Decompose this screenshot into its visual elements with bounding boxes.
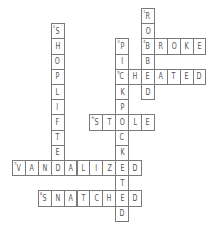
crossword-cell[interactable]: E <box>115 160 129 176</box>
crossword-cell[interactable]: E <box>141 114 155 130</box>
crossword-cell[interactable]: L <box>51 84 65 100</box>
crossword-cell[interactable]: O <box>167 38 181 54</box>
crossword-cell[interactable]: Z <box>102 160 116 176</box>
cell-letter: O <box>120 118 125 127</box>
crossword-cell[interactable]: L <box>128 114 142 130</box>
crossword-cell[interactable]: T <box>167 69 181 85</box>
crossword-cell[interactable]: S6 <box>89 114 103 130</box>
cell-letter: H <box>107 194 112 203</box>
crossword-cell[interactable]: A <box>154 69 168 85</box>
crossword-cell[interactable]: P <box>115 99 129 115</box>
crossword-cell[interactable]: E <box>141 69 155 85</box>
cell-letter: D <box>120 209 125 218</box>
cell-letter: D <box>133 194 138 203</box>
cell-letter: T <box>120 179 124 188</box>
crossword-cell[interactable]: N <box>38 160 52 176</box>
crossword-cell[interactable]: O <box>115 114 129 130</box>
crossword-cell[interactable]: K <box>115 145 129 161</box>
crossword-cell[interactable]: I <box>89 160 103 176</box>
crossword-cell[interactable]: V7 <box>12 160 26 176</box>
crossword-cell[interactable]: D <box>115 206 129 222</box>
crossword-cell[interactable]: L <box>77 160 91 176</box>
cell-letter: A <box>68 194 72 203</box>
cell-letter: V <box>17 164 21 173</box>
clue-number: 8 <box>40 191 43 196</box>
cell-letter: L <box>56 88 60 97</box>
crossword-cell[interactable]: T <box>102 114 116 130</box>
cell-letter: T <box>107 118 111 127</box>
crossword-cell[interactable]: T <box>77 190 91 206</box>
cell-letter: E <box>56 148 60 157</box>
crossword-cell[interactable]: O <box>141 23 155 39</box>
crossword-cell[interactable]: C <box>89 190 103 206</box>
crossword-cell[interactable]: K <box>180 38 194 54</box>
cell-letter: L <box>133 118 137 127</box>
cell-letter: D <box>133 164 138 173</box>
crossword-cell[interactable]: C <box>115 130 129 146</box>
crossword-cell[interactable]: A <box>64 160 78 176</box>
crossword-cell[interactable]: D <box>128 160 142 176</box>
crossword-cell[interactable]: D <box>141 84 155 100</box>
crossword-cell[interactable]: H <box>128 69 142 85</box>
crossword-cell[interactable]: D <box>128 190 142 206</box>
cell-letter: R <box>146 12 150 21</box>
cell-letter: A <box>159 72 163 81</box>
cell-letter: Z <box>107 164 111 173</box>
crossword-cell[interactable]: S8 <box>38 190 52 206</box>
cell-letter: L <box>82 164 86 173</box>
crossword-cell[interactable]: R1 <box>141 8 155 24</box>
crossword-cell[interactable]: I <box>51 99 65 115</box>
crossword-cell[interactable]: C5 <box>115 69 129 85</box>
crossword-cell[interactable]: D <box>51 160 65 176</box>
cell-letter: B <box>146 42 150 51</box>
cell-letter: E <box>120 164 124 173</box>
cell-letter: I <box>121 57 123 66</box>
crossword-cell[interactable]: H <box>102 190 116 206</box>
cell-letter: K <box>120 88 124 97</box>
crossword-cell[interactable]: T <box>115 175 129 191</box>
cell-letter: E <box>185 72 189 81</box>
cell-letter: I <box>57 103 59 112</box>
crossword-cell[interactable]: D <box>193 69 207 85</box>
crossword-cell[interactable]: I <box>115 54 129 70</box>
crossword-cell[interactable]: B4 <box>141 38 155 54</box>
cell-letter: D <box>197 72 202 81</box>
crossword-cell[interactable]: N <box>51 190 65 206</box>
crossword-cell[interactable]: O <box>51 54 65 70</box>
cell-letter: O <box>171 42 176 51</box>
cell-letter: T <box>81 194 85 203</box>
cell-letter: F <box>56 118 60 127</box>
crossword-cell[interactable]: P <box>51 69 65 85</box>
crossword-cell[interactable]: A <box>64 190 78 206</box>
crossword-cell[interactable]: P3 <box>115 38 129 54</box>
clue-number: 1 <box>143 9 146 14</box>
cell-letter: H <box>133 72 138 81</box>
crossword-cell[interactable]: K <box>115 84 129 100</box>
crossword-cell[interactable]: B <box>141 54 155 70</box>
crossword-cell[interactable]: F <box>51 114 65 130</box>
cell-letter: K <box>185 42 189 51</box>
crossword-grid: R1OB4BEDS2HOPLIFTEDP3IC5KPOCKETEDROKEHAT… <box>0 0 215 227</box>
crossword-cell[interactable]: H <box>51 38 65 54</box>
cell-letter: C <box>94 194 98 203</box>
cell-letter: R <box>159 42 163 51</box>
crossword-cell[interactable]: E <box>193 38 207 54</box>
clue-number: 6 <box>91 115 94 120</box>
cell-letter: D <box>145 88 150 97</box>
cell-letter: T <box>172 72 176 81</box>
cell-letter: S <box>56 27 60 36</box>
crossword-cell[interactable]: A <box>25 160 39 176</box>
crossword-cell[interactable]: E <box>115 190 129 206</box>
cell-letter: S <box>94 118 98 127</box>
cell-letter: P <box>56 72 60 81</box>
cell-letter: E <box>146 118 150 127</box>
cell-letter: N <box>55 194 60 203</box>
clue-number: 7 <box>14 161 17 166</box>
clue-number: 4 <box>143 39 146 44</box>
crossword-cell[interactable]: R <box>154 38 168 54</box>
cell-letter: P <box>120 42 124 51</box>
crossword-cell[interactable]: S2 <box>51 23 65 39</box>
crossword-cell[interactable]: E <box>180 69 194 85</box>
crossword-cell[interactable]: E <box>51 145 65 161</box>
crossword-cell[interactable]: T <box>51 130 65 146</box>
